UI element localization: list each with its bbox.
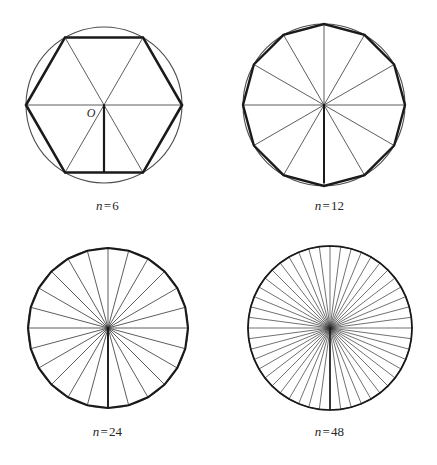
caption-n12: n=12 xyxy=(222,198,437,214)
radius-line xyxy=(254,105,324,146)
radius-line xyxy=(330,328,388,386)
caption-n6: n=6 xyxy=(0,198,215,214)
radius-line xyxy=(108,328,185,349)
radius-line xyxy=(31,307,108,328)
caption-equals-n48: = xyxy=(321,424,331,439)
center-label-O: O xyxy=(87,106,96,120)
radius-line xyxy=(31,328,108,349)
radius-line xyxy=(65,37,104,105)
radius-line xyxy=(108,328,129,405)
radius-line xyxy=(324,65,394,106)
panel-n12 xyxy=(243,24,405,186)
radius-line xyxy=(108,307,185,328)
radius-line xyxy=(309,249,330,328)
radius-line xyxy=(289,257,330,328)
radius-line xyxy=(324,105,394,146)
panel-n6: O xyxy=(26,27,182,183)
figure-root: O n=6 n=12 n=24 n=48 xyxy=(0,0,437,465)
radius-line xyxy=(289,328,330,399)
center-point xyxy=(323,104,325,106)
radius-line xyxy=(39,288,108,328)
radius-line xyxy=(51,271,108,328)
radius-line xyxy=(251,328,330,349)
caption-n48: n=48 xyxy=(222,424,437,440)
radius-line xyxy=(39,328,108,368)
caption-variable-n6: n xyxy=(96,198,103,213)
caption-equals-n12: = xyxy=(321,198,331,213)
caption-value-n24: 24 xyxy=(109,424,122,439)
center-point xyxy=(103,104,105,106)
caption-value-n12: 12 xyxy=(331,198,344,213)
center-point xyxy=(329,327,331,329)
radius-line xyxy=(284,35,325,105)
caption-value-n6: 6 xyxy=(112,198,119,213)
radius-line xyxy=(330,257,371,328)
radius-line xyxy=(87,251,108,328)
radius-line xyxy=(330,328,409,349)
panel-n48 xyxy=(248,246,412,410)
radius-line xyxy=(330,270,388,328)
radius-line xyxy=(51,328,108,385)
radius-line xyxy=(272,328,330,386)
caption-n24: n=24 xyxy=(0,424,215,440)
radius-line xyxy=(330,328,351,407)
radius-line xyxy=(330,287,401,328)
radius-line xyxy=(251,307,330,328)
radius-line xyxy=(104,105,143,173)
radius-line xyxy=(309,328,330,407)
radius-line xyxy=(108,328,148,397)
radius-line xyxy=(65,105,104,173)
caption-equals-n24: = xyxy=(99,424,109,439)
caption-equals-n6: = xyxy=(103,198,113,213)
radius-line xyxy=(87,328,108,405)
radius-line xyxy=(108,251,129,328)
radius-line xyxy=(254,65,324,106)
radius-line xyxy=(272,270,330,328)
radius-line xyxy=(68,259,108,328)
radius-line xyxy=(68,328,108,397)
radius-line xyxy=(108,328,177,368)
caption-value-n48: 48 xyxy=(331,424,344,439)
radius-line xyxy=(330,328,371,399)
radius-line xyxy=(330,249,351,328)
radius-line xyxy=(259,287,330,328)
radius-line xyxy=(284,105,325,175)
radius-line xyxy=(330,307,409,328)
panel-n24 xyxy=(28,248,188,408)
radius-line xyxy=(324,105,365,175)
radius-line xyxy=(330,328,401,369)
radius-line xyxy=(324,35,365,105)
radius-line xyxy=(104,37,143,105)
radius-line xyxy=(259,328,330,369)
polygon-figure-canvas: O xyxy=(0,0,437,465)
radius-line xyxy=(108,259,148,328)
radius-line xyxy=(108,288,177,328)
center-point xyxy=(107,327,109,329)
radius-line xyxy=(108,271,165,328)
radius-line xyxy=(108,328,165,385)
